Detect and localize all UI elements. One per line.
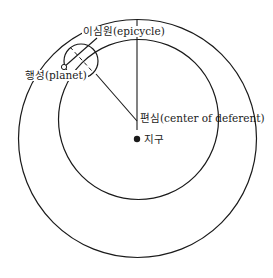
- epicycle-label: 이심원(epicycle): [82, 26, 166, 37]
- planet-line: [64, 38, 97, 67]
- earth-label: 지구: [144, 134, 164, 145]
- planet-label: 행성(planet): [24, 70, 88, 81]
- center-of-deferent-label: 편심(center of deferent): [140, 113, 265, 124]
- earth-dot: [134, 136, 140, 142]
- epicycle-diagram: [0, 0, 273, 278]
- epicycle-radius-line: [96, 74, 137, 121]
